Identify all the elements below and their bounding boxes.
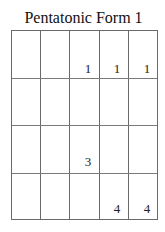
finger-marker: 4	[111, 202, 123, 216]
fretboard-grid: 1 1 1 3 4 4	[11, 30, 158, 220]
fret-line	[12, 125, 157, 126]
finger-marker: 1	[111, 62, 123, 76]
chart-title: Pentatonic Form 1	[0, 9, 165, 27]
fret-line	[12, 173, 157, 174]
finger-marker: 4	[141, 202, 153, 216]
finger-marker: 3	[82, 155, 94, 169]
finger-marker: 1	[82, 62, 94, 76]
finger-marker: 1	[141, 62, 153, 76]
fret-line	[12, 78, 157, 79]
